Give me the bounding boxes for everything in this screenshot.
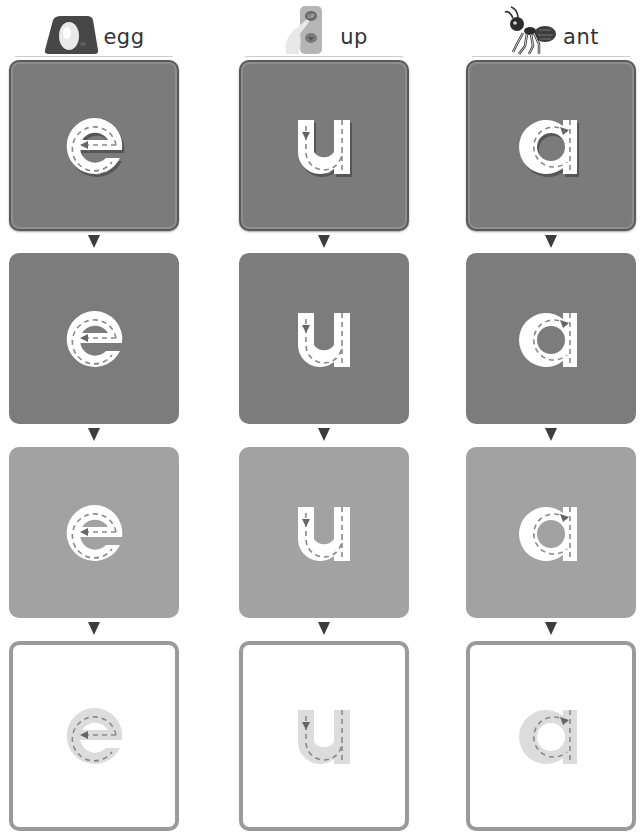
letter-u-glyph xyxy=(284,106,364,186)
letter-a-glyph xyxy=(511,106,591,186)
letter-u-glyph xyxy=(284,696,364,776)
trace-tile-medium[interactable] xyxy=(466,447,636,618)
column-header-up: UP up xyxy=(239,0,409,56)
down-arrow-icon xyxy=(545,622,557,635)
column-u: UP up u xyxy=(239,0,409,836)
letter-e-glyph xyxy=(54,106,134,186)
trace-tile-medium[interactable] xyxy=(239,447,409,618)
trace-tile-outline[interactable] xyxy=(9,641,179,831)
letter-a-glyph xyxy=(511,299,591,379)
column-e: egg e xyxy=(9,0,179,836)
down-arrow-icon xyxy=(545,428,557,441)
trace-tile-dark[interactable] xyxy=(9,253,179,424)
column-a: ant a xyxy=(466,0,636,836)
down-arrow-icon xyxy=(318,428,330,441)
trace-tile-embossed[interactable]: e xyxy=(9,60,179,231)
picture-word: up xyxy=(340,27,368,56)
down-arrow-icon xyxy=(545,235,557,248)
down-arrow-icon xyxy=(88,235,100,248)
trace-tile-medium[interactable] xyxy=(9,447,179,618)
letter-a-glyph xyxy=(511,493,591,573)
down-arrow-icon xyxy=(88,622,100,635)
ant-icon xyxy=(503,6,559,56)
down-arrow-icon xyxy=(318,622,330,635)
letter-e-glyph xyxy=(54,696,134,776)
trace-tile-dark[interactable] xyxy=(239,253,409,424)
column-header-ant: ant xyxy=(466,0,636,56)
letter-u-glyph xyxy=(284,493,364,573)
letter-e-glyph xyxy=(54,493,134,573)
trace-tile-embossed[interactable]: u xyxy=(239,60,409,231)
egg-in-nest-icon xyxy=(43,6,99,56)
picture-word: ant xyxy=(563,27,599,56)
elevator-up-button-icon: UP xyxy=(280,6,336,56)
down-arrow-icon xyxy=(88,428,100,441)
trace-tile-outline[interactable] xyxy=(239,641,409,831)
trace-tile-dark[interactable] xyxy=(466,253,636,424)
letter-e-glyph xyxy=(54,299,134,379)
column-header-egg: egg xyxy=(9,0,179,56)
svg-text:UP: UP xyxy=(308,13,315,19)
trace-tile-embossed[interactable]: a xyxy=(466,60,636,231)
letter-u-glyph xyxy=(284,299,364,379)
down-arrow-icon xyxy=(318,235,330,248)
header-divider xyxy=(15,56,173,57)
header-divider xyxy=(472,56,630,57)
trace-tile-outline[interactable] xyxy=(466,641,636,831)
letter-a-glyph xyxy=(511,696,591,776)
header-divider xyxy=(245,56,403,57)
picture-word: egg xyxy=(103,27,144,56)
